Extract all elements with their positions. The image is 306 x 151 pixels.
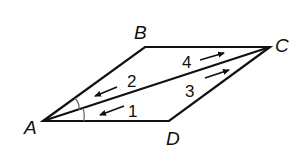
parallelogram-diagram: A B C D 2 1 4 3 xyxy=(0,0,306,151)
vertex-label-d: D xyxy=(166,128,180,149)
arrow-1-icon xyxy=(100,106,124,115)
arrow-2-icon xyxy=(95,87,117,96)
angle-arc-2 xyxy=(75,98,79,110)
diagonal-ac xyxy=(43,47,270,121)
angle-label-3: 3 xyxy=(185,82,194,101)
vertex-label-b: B xyxy=(134,22,147,43)
angle-label-1: 1 xyxy=(128,102,137,121)
vertex-label-c: C xyxy=(275,35,289,56)
angle-label-2: 2 xyxy=(127,72,136,91)
arrow-3-icon xyxy=(205,70,229,78)
arrow-4-icon xyxy=(200,53,224,60)
angle-arc-1 xyxy=(83,108,84,121)
angle-label-4: 4 xyxy=(182,53,191,72)
vertex-label-a: A xyxy=(23,117,37,138)
